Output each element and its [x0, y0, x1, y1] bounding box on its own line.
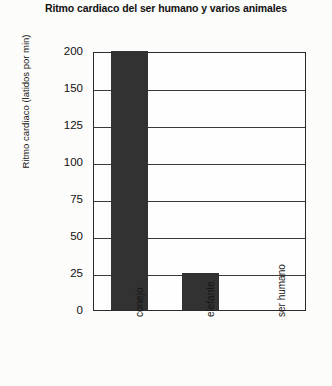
bar-conejo — [111, 51, 148, 310]
x-axis-tick-labels: conejoelefanteser humano — [93, 311, 306, 386]
y-tick-label: 200 — [23, 46, 83, 58]
y-tick-label: 50 — [23, 231, 83, 243]
plot-area — [93, 52, 306, 311]
chart-title: Ritmo cardiaco del ser humano y varios a… — [0, 2, 332, 14]
y-tick-label: 100 — [23, 157, 83, 169]
x-tick-label: conejo — [134, 288, 145, 317]
chart-figure: Ritmo cardiaco del ser humano y varios a… — [0, 0, 332, 386]
x-tick-label: ser humano — [276, 264, 287, 317]
y-tick-label: 75 — [23, 194, 83, 206]
y-tick-label: 150 — [23, 83, 83, 95]
x-tick-label: elefante — [205, 281, 216, 317]
y-tick-label: 125 — [23, 120, 83, 132]
y-tick-label: 25 — [23, 268, 83, 280]
y-axis-tick-labels: 0255075100125150200 — [0, 52, 93, 311]
y-tick-label: 0 — [23, 305, 83, 317]
